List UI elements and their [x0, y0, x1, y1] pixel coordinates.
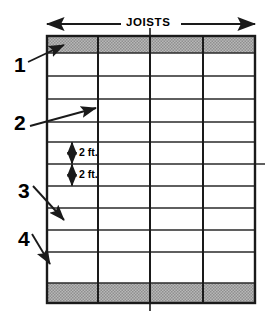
joists-label: JOISTS — [126, 17, 171, 29]
dimension-label-lower: 2 ft. — [79, 169, 98, 180]
callout-label-4: 4 — [18, 228, 30, 249]
callout-label-1: 1 — [14, 54, 26, 75]
diagram-canvas — [0, 0, 269, 313]
callout-label-3: 3 — [18, 180, 30, 201]
joist-framing-diagram: JOISTS 1 2 3 4 2 ft. 2 ft. — [0, 0, 269, 313]
callout-label-2: 2 — [14, 112, 26, 133]
dimension-label-upper: 2 ft. — [79, 147, 98, 158]
